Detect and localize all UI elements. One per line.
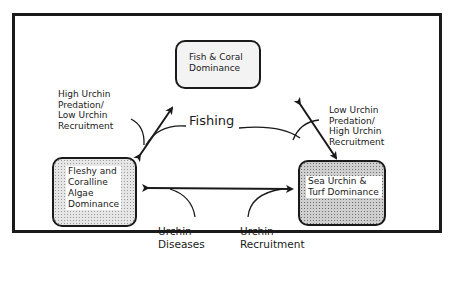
node-urchin-turf: Sea Urchin & Turf Dominance: [298, 160, 386, 226]
curve-low-predation: [293, 120, 319, 140]
label-urchin-recruitment: Urchin Recruitment: [240, 225, 305, 251]
curve-diseases: [170, 189, 195, 217]
node-fish-coral-label: Fish & Coral Dominance: [189, 52, 243, 74]
label-high-predation: High Urchin Predation/ Low Urchin Recrui…: [58, 89, 113, 131]
label-urchin-diseases: Urchin Diseases: [158, 225, 205, 251]
curve-fishing-left: [146, 126, 186, 145]
node-fish-coral: Fish & Coral Dominance: [175, 40, 261, 89]
node-urchin-turf-label: Sea Urchin & Turf Dominance: [306, 176, 382, 198]
label-fishing: Fishing: [189, 116, 234, 127]
curve-fishing-right: [239, 127, 300, 138]
node-algae-label: Fleshy and Coralline Algae Dominance: [66, 166, 121, 210]
arrow-algae-urchin: [148, 188, 292, 189]
label-low-predation: Low Urchin Predation/ High Urchin Recrui…: [329, 105, 384, 147]
arrow-algae-fish: [140, 108, 172, 155]
node-algae: Fleshy and Coralline Algae Dominance: [52, 157, 137, 227]
curve-recruitment: [248, 189, 282, 217]
curve-high-predation: [131, 119, 144, 145]
